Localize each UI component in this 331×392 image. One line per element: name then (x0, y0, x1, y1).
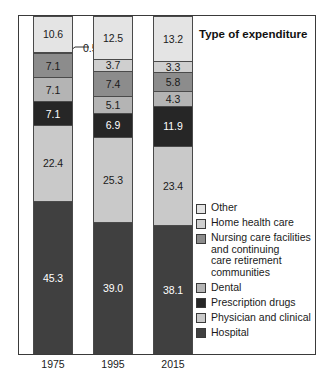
bar-2015[interactable]: 13.23.35.84.311.923.438.1 (153, 16, 193, 354)
x-tick-2015: 2015 (153, 358, 193, 370)
legend-item-nursing[interactable]: Nursing care facilitiesand continuingcar… (196, 232, 314, 278)
segment-value-label: 7.4 (106, 79, 120, 90)
segment-1995-dental[interactable]: 5.1 (94, 96, 132, 113)
segment-1975-other[interactable]: 10.6 (34, 16, 72, 52)
segment-value-label: 12.5 (103, 33, 123, 44)
legend-swatch-icon (196, 328, 206, 338)
bar-1975[interactable]: 10.60.57.17.17.122.445.3 (33, 16, 73, 354)
legend-item-physician[interactable]: Physician and clinical (196, 312, 314, 324)
segment-2015-hospital[interactable]: 38.1 (154, 225, 192, 354)
legend: OtherHome health careNursing care facili… (196, 202, 314, 342)
chart-title: Type of expenditure (199, 28, 307, 40)
segment-value-label: 5.1 (106, 100, 120, 111)
legend-item-label: Nursing care facilitiesand continuingcar… (211, 232, 311, 278)
segment-1995-prescription[interactable]: 6.9 (94, 113, 132, 136)
legend-swatch-icon (196, 313, 206, 323)
legend-swatch-icon (196, 234, 206, 244)
segment-1995-home[interactable]: 3.7 (94, 59, 132, 72)
segment-value-label: 39.0 (103, 283, 123, 294)
bar-1995[interactable]: 12.53.77.45.16.925.339.0 (93, 16, 133, 354)
x-tick-1995: 1995 (93, 358, 133, 370)
legend-swatch-icon (196, 204, 206, 214)
segment-1995-hospital[interactable]: 39.0 (94, 222, 132, 354)
segment-1975-physician[interactable]: 22.4 (34, 125, 72, 201)
x-axis-labels: 197519952015 (19, 358, 189, 378)
segment-value-label: 7.1 (46, 109, 60, 120)
legend-item-dental[interactable]: Dental (196, 282, 314, 294)
segment-2015-physician[interactable]: 23.4 (154, 146, 192, 225)
legend-item-label: Dental (211, 282, 241, 294)
segment-value-label: 22.4 (43, 158, 63, 169)
segment-1975-nursing[interactable]: 7.1 (34, 53, 72, 77)
segment-1995-physician[interactable]: 25.3 (94, 137, 132, 223)
chart-figure: 0.5 10.60.57.17.17.122.445.312.53.77.45.… (0, 0, 331, 392)
legend-swatch-icon (196, 283, 206, 293)
segment-value-label: 3.7 (106, 60, 120, 71)
segment-1975-hospital[interactable]: 45.3 (34, 201, 72, 354)
segment-value-label: 23.4 (163, 181, 183, 192)
x-tick-1975: 1975 (33, 358, 73, 370)
segment-1975-prescription[interactable]: 7.1 (34, 101, 72, 125)
legend-item-home[interactable]: Home health care (196, 217, 314, 229)
legend-item-label: Physician and clinical (211, 312, 311, 324)
segment-2015-dental[interactable]: 4.3 (154, 91, 192, 106)
segment-1995-nursing[interactable]: 7.4 (94, 71, 132, 96)
segment-1975-dental[interactable]: 7.1 (34, 77, 72, 101)
segment-value-label: 5.8 (166, 77, 180, 88)
segment-value-label: 7.1 (46, 61, 60, 72)
legend-swatch-icon (196, 298, 206, 308)
plot-area: 0.5 10.60.57.17.17.122.445.312.53.77.45.… (19, 16, 189, 354)
legend-item-other[interactable]: Other (196, 202, 314, 214)
segment-2015-other[interactable]: 13.2 (154, 16, 192, 61)
segment-value-label: 45.3 (43, 273, 63, 284)
segment-value-label: 11.9 (163, 121, 182, 132)
segment-value-label: 7.1 (46, 85, 60, 96)
segment-2015-prescription[interactable]: 11.9 (154, 106, 192, 146)
legend-item-label: Other (211, 202, 237, 214)
legend-item-hospital[interactable]: Hospital (196, 327, 314, 339)
legend-item-label: Home health care (211, 217, 294, 229)
segment-value-label: 6.9 (106, 120, 120, 131)
segment-value-label: 38.1 (163, 285, 183, 296)
segment-1995-other[interactable]: 12.5 (94, 16, 132, 58)
segment-value-label: 13.2 (163, 34, 183, 45)
segment-value-label: 10.6 (43, 29, 63, 40)
segment-value-label: 25.3 (103, 175, 123, 186)
title-box: Type of expenditure (189, 16, 315, 52)
segment-value-label: 3.3 (166, 62, 180, 72)
legend-swatch-icon (196, 219, 206, 229)
legend-item-prescription[interactable]: Prescription drugs (196, 297, 314, 309)
segment-2015-nursing[interactable]: 5.8 (154, 72, 192, 92)
legend-item-label: Prescription drugs (211, 297, 296, 309)
segment-2015-home[interactable]: 3.3 (154, 61, 192, 72)
legend-item-label: Hospital (211, 327, 249, 339)
segment-value-label: 4.3 (166, 94, 180, 105)
